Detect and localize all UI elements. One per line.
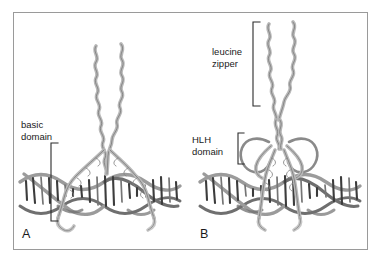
panel-letter-a: A bbox=[22, 227, 31, 241]
panel-letter-b: B bbox=[200, 227, 208, 241]
leucine-zipper-bracket bbox=[253, 22, 260, 106]
basic-domain-label-line2: domain bbox=[21, 131, 52, 142]
figure-illustration: basic domain leucine zipper HLH domain A… bbox=[0, 0, 382, 262]
basic-domain-label-line1: basic bbox=[21, 119, 43, 130]
panel-a-dna-base-pairs bbox=[26, 176, 177, 206]
leucine-zipper-label-line1: leucine bbox=[212, 46, 242, 57]
annotation-hlh-domain: HLH domain bbox=[192, 133, 244, 164]
hlh-domain-label-line2: domain bbox=[192, 146, 223, 157]
figure-root: basic domain leucine zipper HLH domain A… bbox=[0, 0, 382, 262]
panel-b-leucine-zipper-coil bbox=[268, 22, 295, 149]
panel-a-dna bbox=[20, 174, 180, 215]
annotation-leucine-zipper: leucine zipper bbox=[212, 22, 260, 106]
annotation-basic-domain: basic domain bbox=[21, 119, 58, 221]
hlh-domain-label-line1: HLH bbox=[192, 134, 211, 145]
panel-b-dna-base-pairs bbox=[206, 176, 357, 206]
leucine-zipper-label-line2: zipper bbox=[212, 58, 238, 69]
panel-b-dna bbox=[200, 174, 360, 215]
